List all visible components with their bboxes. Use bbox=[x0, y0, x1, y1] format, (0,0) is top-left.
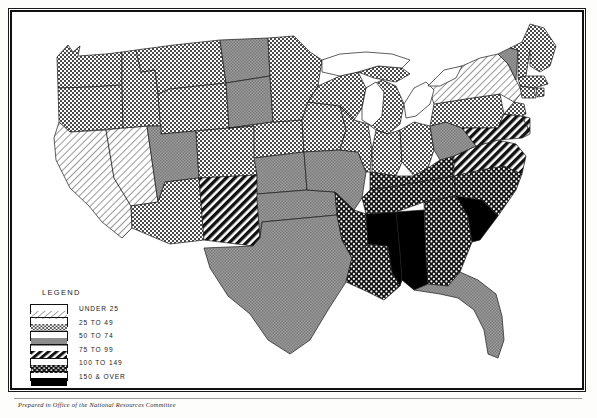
state-new-mexico bbox=[199, 175, 260, 246]
source-caption: Prepared in Office of the National Resou… bbox=[18, 401, 176, 408]
lake-huron-erie bbox=[404, 82, 434, 118]
legend-item-25-49: 25 TO 49 bbox=[30, 317, 160, 328]
state-south-dakota bbox=[226, 76, 273, 128]
legend-label-100-149: 100 TO 149 bbox=[79, 359, 123, 366]
legend-item-150-over: 150 & OVER bbox=[30, 371, 160, 382]
state-kansas bbox=[254, 152, 307, 194]
state-indiana bbox=[372, 130, 402, 176]
state-washington bbox=[57, 45, 122, 88]
legend-swatch-under-25 bbox=[30, 304, 68, 314]
state-north-dakota bbox=[220, 38, 270, 83]
legend-label-150-over: 150 & OVER bbox=[79, 373, 126, 380]
legend-swatch-25-49 bbox=[30, 317, 68, 327]
legend-item-under-25: UNDER 25 bbox=[30, 303, 160, 314]
legend-label-25-49: 25 TO 49 bbox=[79, 319, 113, 326]
state-rhode-island bbox=[536, 88, 544, 97]
state-oregon bbox=[58, 85, 123, 132]
legend-swatch-50-74 bbox=[30, 331, 68, 341]
caption-divider bbox=[14, 398, 582, 399]
legend-label-75-99: 75 TO 99 bbox=[79, 346, 113, 353]
legend-label-under-25: UNDER 25 bbox=[79, 305, 119, 312]
legend-swatch-150-over bbox=[30, 371, 68, 381]
state-iowa bbox=[302, 102, 346, 152]
legend-item-50-74: 50 TO 74 bbox=[30, 330, 160, 341]
state-connecticut bbox=[520, 86, 536, 98]
state-new-jersey bbox=[504, 102, 526, 116]
state-wyoming bbox=[158, 83, 229, 134]
legend-swatch-100-149 bbox=[30, 358, 68, 368]
legend: LEGEND UNDER 25 25 TO 49 50 TO 74 75 TO bbox=[30, 288, 160, 384]
state-colorado bbox=[196, 126, 257, 178]
legend-item-100-149: 100 TO 149 bbox=[30, 357, 160, 368]
map-page: LEGEND UNDER 25 25 TO 49 50 TO 74 75 TO bbox=[0, 0, 597, 418]
state-florida bbox=[414, 272, 504, 358]
legend-title: LEGEND bbox=[42, 288, 160, 297]
legend-item-75-99: 75 TO 99 bbox=[30, 344, 160, 355]
legend-label-50-74: 50 TO 74 bbox=[79, 332, 113, 339]
legend-swatch-75-99 bbox=[30, 344, 68, 354]
